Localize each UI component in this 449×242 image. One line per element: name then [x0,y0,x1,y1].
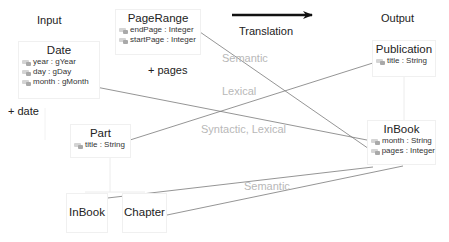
class-inbook-input[interactable]: InBook [66,193,108,233]
attribute-icon [119,37,128,44]
mapping-label-semantic-top: Semantic [222,52,268,64]
attribute-icon [22,59,31,66]
attribute-icon [371,138,380,145]
class-title: InBook [368,123,435,136]
class-part[interactable]: Part title : String [70,124,131,158]
attribute-endpage[interactable]: endPage : Integer [116,25,200,35]
translation-label: Translation [239,25,293,37]
plus-pages-note: + pages [148,64,187,76]
class-title: PageRange [116,12,200,25]
output-heading: Output [381,12,414,24]
attribute-icon [376,58,385,65]
attribute-icon [22,69,31,76]
attribute-month[interactable]: month : gMonth [19,77,99,87]
attribute-icon [22,79,31,86]
attribute-year[interactable]: year : gYear [19,57,99,67]
attribute-startpage[interactable]: startPage : Integer [116,35,200,45]
attribute-icon [74,142,83,149]
input-heading: Input [37,14,61,26]
attribute-title[interactable]: title : String [373,56,435,66]
attribute-day[interactable]: day : gDay [19,67,99,77]
class-date[interactable]: Date year : gYear day : gDay month : gMo… [18,41,100,99]
mapping-label-semantic-bottom: Semantic [244,180,290,192]
attribute-month[interactable]: month : String [368,136,435,146]
class-pagerange[interactable]: PageRange endPage : Integer startPage : … [115,9,201,55]
class-publication[interactable]: Publication title : String [372,40,436,77]
class-inbook-output[interactable]: InBook month : String pages : Integer [367,120,436,165]
mapping-label-lexical: Lexical [222,85,256,97]
attribute-pages[interactable]: pages : Integer [368,146,435,156]
plus-date-note: + date [8,105,39,117]
class-title: Publication [373,43,435,56]
class-chapter[interactable]: Chapter [122,193,167,233]
class-title: Chapter [123,206,166,219]
class-title: InBook [67,206,107,219]
attribute-icon [371,148,380,155]
attribute-title[interactable]: title : String [71,140,130,150]
attribute-icon [119,27,128,34]
class-title: Date [19,44,99,57]
mapping-label-syntactic-lexical: Syntactic, Lexical [201,123,286,135]
class-title: Part [71,127,130,140]
